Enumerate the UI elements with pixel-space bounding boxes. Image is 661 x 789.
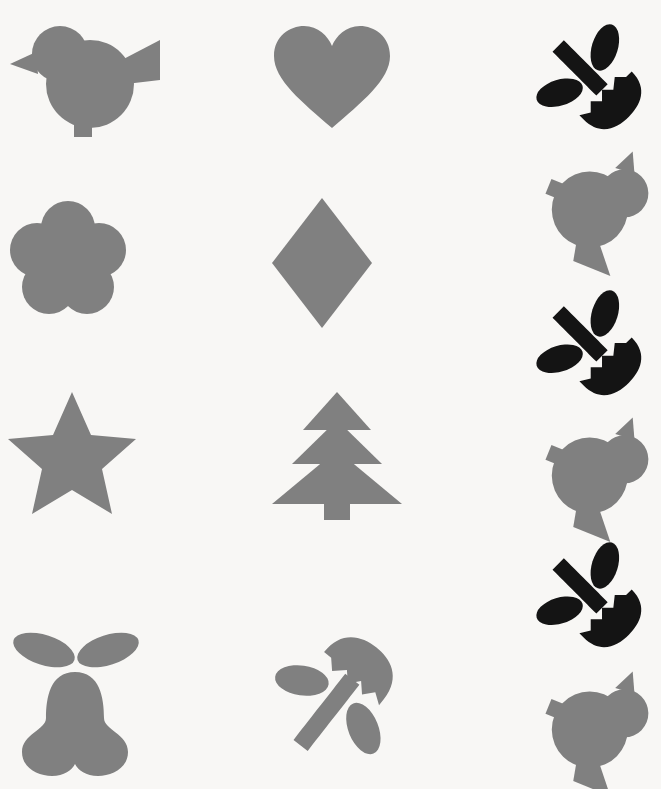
flower-icon bbox=[8, 198, 128, 318]
heart-icon bbox=[272, 22, 392, 132]
bird-icon bbox=[8, 22, 168, 137]
tulip-icon bbox=[528, 540, 652, 646]
tree-icon bbox=[272, 392, 402, 520]
star-icon bbox=[8, 392, 136, 514]
diamond-icon bbox=[272, 198, 372, 328]
pear-icon bbox=[8, 626, 142, 776]
bird-icon bbox=[528, 662, 652, 780]
bird-icon bbox=[528, 142, 652, 260]
icon-sheet bbox=[0, 0, 661, 789]
bird-icon bbox=[528, 408, 652, 526]
tulip-icon bbox=[528, 22, 652, 128]
tulip-icon bbox=[272, 626, 404, 766]
tulip-icon bbox=[528, 288, 652, 394]
